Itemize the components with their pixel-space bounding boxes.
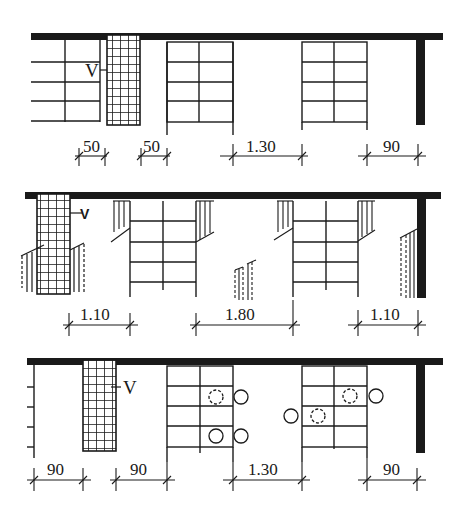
seat-icon: [234, 429, 248, 443]
dim-label: 90: [47, 460, 64, 479]
seat-icon-dashed: [209, 390, 223, 404]
dim-label: 1.30: [248, 460, 278, 479]
study-carrel-block: [107, 35, 140, 125]
label-v: V: [123, 377, 137, 398]
shelf-unit-bottom-1: [167, 366, 233, 462]
dim-label: 1.80: [225, 305, 255, 324]
seat-icon: [234, 390, 248, 404]
ceiling-wall: [25, 192, 441, 199]
hatched-zone: [235, 260, 256, 300]
wall-shelf-left: [27, 362, 34, 458]
study-carrel-block: [83, 360, 116, 451]
ceiling-wall: [31, 33, 443, 40]
shelf-unit-2: [167, 42, 233, 135]
label-v: V: [85, 60, 99, 81]
middle-layout: V: [21, 192, 441, 300]
side-wall: [416, 33, 425, 125]
bottom-dimensions: [27, 458, 426, 491]
side-wall: [417, 192, 426, 298]
seat-icon: [209, 429, 223, 443]
reader-seats: [209, 390, 248, 443]
seat-icon-dashed: [343, 389, 357, 403]
shelf-unit-left: [31, 40, 100, 122]
seat-icon-dashed: [311, 409, 325, 423]
label-v: V: [80, 206, 90, 222]
shelf-unit-bottom-2: [302, 366, 367, 462]
study-carrel-block: [37, 194, 70, 294]
side-wall: [416, 358, 425, 453]
dim-label: 50: [143, 137, 160, 156]
shelf-unit-middle-2: [293, 201, 358, 297]
shelving-layout-diagram: V 50 50 1.3: [0, 0, 458, 517]
dim-label: 90: [383, 460, 400, 479]
seat-icon: [369, 389, 383, 403]
dim-label: 90: [130, 460, 147, 479]
bottom-layout: V: [27, 358, 443, 462]
hatched-zone-right: [400, 229, 417, 298]
top-layout: V: [31, 33, 443, 135]
dim-label: 1.30: [246, 137, 276, 156]
shelf-unit-middle-1: [130, 201, 196, 297]
dim-label: 1.10: [370, 305, 400, 324]
dim-label: 1.10: [80, 305, 110, 324]
dim-label: 50: [83, 137, 100, 156]
dim-label: 90: [383, 137, 400, 156]
shelf-unit-3: [302, 42, 367, 130]
seat-icon: [284, 409, 298, 423]
